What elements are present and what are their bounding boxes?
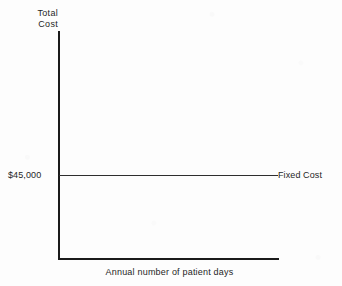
fixed-cost-series-label: Fixed Cost [278, 170, 322, 181]
fixed-cost-chart: Total Cost $45,000 Fixed Cost Annual num… [0, 0, 342, 286]
y-axis-title: Total Cost [14, 8, 58, 30]
x-axis-line [58, 258, 279, 260]
y-axis-title-line-2: Cost [14, 19, 58, 30]
y-axis-line [58, 31, 60, 260]
y-axis-tick-label-45000: $45,000 [8, 170, 41, 181]
fixed-cost-series-line [59, 175, 278, 176]
x-axis-title: Annual number of patient days [59, 267, 280, 278]
y-axis-title-line-1: Total [14, 8, 58, 19]
scan-noise-overlay [0, 0, 342, 286]
